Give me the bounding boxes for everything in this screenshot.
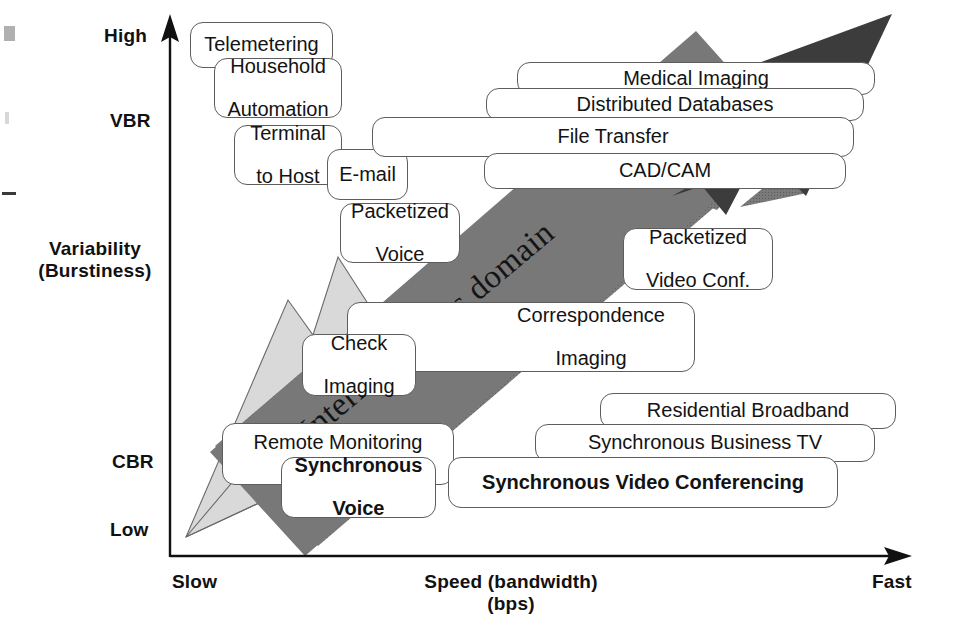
- diagram-canvas: Internet Access domain High VBR Variabil…: [0, 0, 959, 640]
- node-packetized-video-conf[interactable]: Packetized Video Conf.: [623, 228, 773, 290]
- y-axis-title-line2: (Burstiness): [24, 260, 166, 281]
- node-residential-broadband-label: Residential Broadband: [609, 400, 887, 422]
- node-telemetering-label: Telemetering: [199, 34, 324, 56]
- node-packetized-video-conf-label: Packetized Video Conf.: [632, 227, 764, 292]
- x-axis-label-slow: Slow: [172, 571, 217, 592]
- x-axis-label-fast: Fast: [872, 571, 912, 592]
- node-synchronous-video-conferencing[interactable]: Synchronous Video Conferencing: [448, 457, 838, 508]
- node-email-label: E-mail: [336, 164, 399, 186]
- line2: Imaging: [496, 348, 686, 370]
- y-axis-arrowhead: [161, 14, 179, 42]
- node-file-transfer[interactable]: File Transfer: [372, 117, 854, 157]
- line1: Synchronous: [290, 455, 427, 477]
- line2: Voice: [290, 498, 427, 520]
- y-axis-label-vbr: VBR: [110, 110, 151, 131]
- node-terminal-to-host[interactable]: Terminal to Host: [234, 125, 342, 185]
- node-terminal-to-host-label: Terminal to Host: [243, 123, 333, 188]
- x-axis-arrowhead: [884, 547, 912, 565]
- node-synchronous-voice-label: Synchronous Voice: [290, 455, 427, 520]
- scan-artifact: [5, 112, 9, 124]
- node-check-imaging-label: Check Imaging: [311, 333, 407, 398]
- node-synchronous-video-conferencing-label: Synchronous Video Conferencing: [457, 472, 829, 494]
- node-synchronous-business-tv-label: Synchronous Business TV: [544, 432, 866, 454]
- line2: to Host: [243, 166, 333, 188]
- node-household-automation-label: Household Automation: [223, 56, 333, 121]
- line2: Automation: [223, 99, 333, 121]
- node-remote-monitoring-label: Remote Monitoring: [231, 432, 445, 454]
- line2: Voice: [349, 244, 451, 266]
- line1: Terminal: [243, 123, 333, 145]
- node-file-transfer-label: File Transfer: [381, 126, 845, 148]
- scan-artifact: [4, 26, 15, 41]
- line1: Correspondence: [496, 305, 686, 327]
- scan-artifact: [2, 192, 16, 195]
- node-packetized-voice-label: Packetized Voice: [349, 201, 451, 266]
- y-axis-label-cbr: CBR: [112, 451, 154, 472]
- line1: Packetized: [632, 227, 764, 249]
- node-household-automation[interactable]: Household Automation: [214, 58, 342, 118]
- node-distributed-databases-label: Distributed Databases: [495, 94, 855, 116]
- node-check-imaging[interactable]: Check Imaging: [302, 334, 416, 396]
- y-axis-title-line1: Variability: [30, 238, 160, 259]
- y-axis-label-low: Low: [110, 519, 149, 540]
- line1: Household: [223, 56, 333, 78]
- y-axis-label-high: High: [104, 25, 147, 46]
- line2: Video Conf.: [632, 270, 764, 292]
- node-medical-imaging-label: Medical Imaging: [526, 68, 866, 90]
- node-cad-cam-label: CAD/CAM: [493, 160, 837, 182]
- node-cad-cam[interactable]: CAD/CAM: [484, 153, 846, 189]
- x-axis-title-line1: Speed (bandwidth): [396, 571, 626, 592]
- node-packetized-voice[interactable]: Packetized Voice: [340, 203, 460, 263]
- line2: Imaging: [311, 376, 407, 398]
- node-synchronous-voice[interactable]: Synchronous Voice: [281, 457, 436, 518]
- x-axis-title-line2: (bps): [396, 593, 626, 614]
- line1: Packetized: [349, 201, 451, 223]
- line1: Check: [311, 333, 407, 355]
